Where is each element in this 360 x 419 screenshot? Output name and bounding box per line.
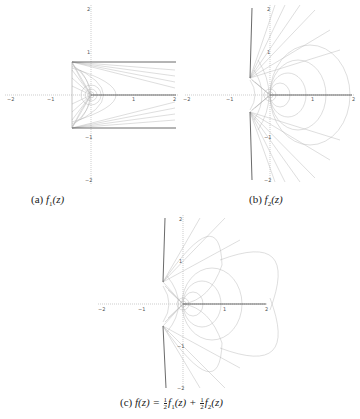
y-tick: 1	[267, 49, 270, 55]
y-tick: −2	[264, 177, 271, 183]
fraction-half: 12	[200, 397, 204, 410]
x-tick: 2	[352, 96, 355, 102]
panel-a-plot: −2 −1 1 2 2 1 −1 −2	[0, 0, 180, 190]
x-tick: −1	[47, 96, 54, 102]
x-tick: −2	[183, 96, 190, 102]
x-tick: −2	[98, 306, 105, 312]
x-tick: 2	[265, 306, 268, 312]
y-tick: 1	[87, 49, 90, 55]
conformal-map-f2: −2 −1 1 2 2 1 −1 −2	[180, 0, 360, 190]
x-tick: −2	[7, 96, 14, 102]
y-tick: −1	[85, 134, 92, 140]
conformal-map-f1: −2 −1 1 2 2 1 −1 −2	[0, 0, 180, 190]
panel-b-plot: −2 −1 1 2 2 1 −1 −2	[180, 0, 360, 190]
x-tick: 1	[223, 306, 226, 312]
caption-b: (b) f2(z)	[249, 193, 283, 208]
x-tick: 1	[311, 96, 314, 102]
fraction-half: 12	[164, 397, 168, 410]
x-tick: −1	[226, 96, 233, 102]
y-tick: −2	[85, 177, 92, 183]
x-tick: 1	[132, 96, 135, 102]
panel-c-plot: −2 −1 1 2 2 1 −1 −2	[90, 210, 280, 390]
conformal-map-f: −2 −1 1 2 2 1 −1 −2	[90, 210, 280, 390]
y-tick: 2	[267, 6, 270, 12]
x-tick: −1	[138, 306, 145, 312]
x-tick: 2	[173, 96, 176, 102]
y-tick: 2	[87, 6, 90, 12]
y-tick: −1	[264, 134, 271, 140]
y-tick: 1	[179, 258, 182, 264]
y-tick: 2	[179, 216, 182, 222]
y-tick: −1	[177, 343, 184, 349]
y-tick: −2	[177, 385, 184, 390]
caption-a: (a) f1(z)	[31, 193, 64, 208]
caption-c: (c) f(z) = 12f1(z) + 12f2(z)	[120, 396, 223, 411]
